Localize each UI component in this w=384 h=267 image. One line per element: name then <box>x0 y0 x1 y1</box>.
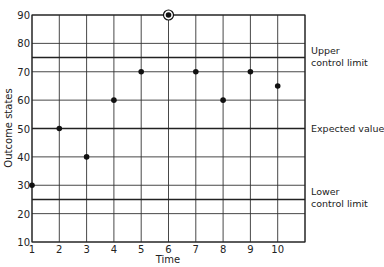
y-tick-label: 80 <box>17 38 30 49</box>
data-point <box>84 154 90 160</box>
x-tick-label: 9 <box>247 244 253 255</box>
data-point <box>275 83 281 89</box>
x-tick-label: 10 <box>271 244 284 255</box>
y-axis-label: Outcome states <box>3 88 14 167</box>
y-tick-label: 50 <box>17 124 30 135</box>
y-axis-ticks: 102030405060708090 <box>17 10 30 248</box>
expected-value-label: Expected value <box>311 123 384 134</box>
upper-control-limit-label: Upper <box>311 45 340 56</box>
y-tick-label: 70 <box>17 67 30 78</box>
y-tick-label: 60 <box>17 95 30 106</box>
x-tick-label: 5 <box>138 244 144 255</box>
x-axis-label: Time <box>155 254 180 265</box>
data-point <box>29 182 35 188</box>
upper-control-limit-label: control limit <box>311 57 368 68</box>
data-point <box>193 69 199 75</box>
y-tick-label: 40 <box>17 152 30 163</box>
lower-control-limit-label: Lower <box>311 186 340 197</box>
y-tick-label: 90 <box>17 10 30 21</box>
reference-line-labels: Uppercontrol limitExpected valueLowercon… <box>311 45 384 210</box>
x-tick-label: 8 <box>220 244 226 255</box>
x-tick-label: 3 <box>83 244 89 255</box>
x-tick-label: 4 <box>111 244 117 255</box>
data-points <box>29 10 280 188</box>
data-point <box>248 69 254 75</box>
data-point <box>138 69 144 75</box>
y-tick-label: 20 <box>17 209 30 220</box>
y-tick-label: 30 <box>17 180 30 191</box>
data-point <box>111 97 117 103</box>
lower-control-limit-label: control limit <box>311 198 368 209</box>
x-tick-label: 7 <box>193 244 199 255</box>
control-chart: 102030405060708090 12345678910 Uppercont… <box>0 0 384 267</box>
x-tick-label: 1 <box>29 244 35 255</box>
x-tick-label: 2 <box>56 244 62 255</box>
data-point <box>220 97 226 103</box>
data-point <box>57 126 63 132</box>
data-point <box>166 12 172 18</box>
